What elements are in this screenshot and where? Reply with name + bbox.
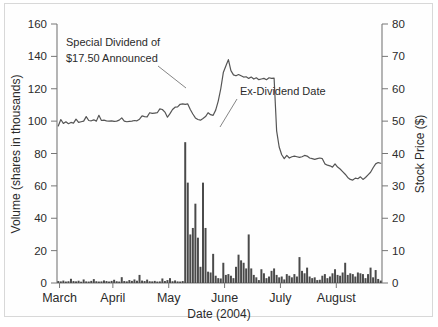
volume-bar [133, 279, 135, 283]
volume-bar [205, 228, 207, 283]
volume-bar [212, 254, 214, 283]
right-axis-ticks [382, 24, 388, 283]
volume-bar [161, 278, 163, 283]
volume-bar [375, 270, 377, 283]
volume-bar [286, 274, 288, 283]
volume-bar [220, 278, 222, 283]
volume-bar [332, 273, 334, 283]
volume-bar [88, 282, 90, 283]
volume-bar [250, 268, 252, 283]
x-axis-month-label: August [317, 291, 356, 305]
volume-bar [329, 277, 331, 283]
volume-bar [357, 272, 359, 283]
left-tick-label: 160 [28, 18, 47, 30]
volume-bar [144, 281, 146, 283]
volume-bar [238, 255, 240, 283]
volume-bar [349, 273, 351, 283]
volume-bar [339, 276, 341, 283]
left-tick-label: 20 [34, 245, 47, 257]
left-tick-label: 120 [28, 83, 47, 95]
left-axis-ticks [51, 24, 57, 283]
volume-bar [184, 142, 186, 283]
volume-bar [118, 282, 120, 283]
volume-bar [126, 281, 128, 283]
x-axis-month-label: July [269, 291, 292, 305]
volume-bar [352, 274, 354, 283]
volume-bar [197, 238, 199, 283]
volume-bar [192, 228, 194, 283]
volume-bar [319, 280, 321, 283]
volume-bar [207, 272, 209, 283]
volume-bar [131, 281, 133, 283]
volume-bar [365, 278, 367, 283]
annotation-special-dividend: Special Dividend of $17.50 Announced [66, 36, 186, 88]
volume-bar [326, 278, 328, 283]
volume-bar [141, 281, 143, 283]
volume-bar [276, 275, 278, 283]
left-axis-title: Volume (shares in thousands) [9, 75, 23, 234]
volume-bar [314, 277, 316, 283]
volume-bar [136, 281, 138, 283]
volume-bar [121, 277, 123, 283]
volume-bar [291, 277, 293, 283]
volume-bar [309, 277, 311, 283]
volume-bar [156, 282, 158, 283]
volume-bar [337, 275, 339, 283]
volume-bar [311, 278, 313, 283]
volume-bar [306, 268, 308, 283]
volume-bar [301, 271, 303, 283]
volume-bar [354, 277, 356, 283]
left-tick-label: 80 [34, 148, 47, 160]
dual-axis-volume-price-chart: 020406080100120140160 Volume (shares in … [0, 0, 438, 327]
volume-bar [78, 281, 80, 283]
volume-bar [172, 281, 174, 283]
x-axis-title: Date (2004) [187, 307, 250, 321]
volume-bar [174, 280, 176, 283]
volume-bar [98, 282, 100, 283]
annotation-ex-dividend-leader-line [220, 99, 237, 127]
stock-price-line [58, 60, 380, 180]
left-tick-label: 140 [28, 50, 47, 62]
volume-bar [113, 280, 115, 283]
right-tick-label: 40 [392, 148, 405, 160]
volume-bar [304, 273, 306, 283]
volume-bar [258, 280, 260, 283]
volume-bar [255, 277, 257, 283]
volume-bar [103, 280, 105, 283]
volume-bar [210, 272, 212, 283]
volume-bar [288, 276, 290, 283]
volume-bar [139, 275, 141, 283]
volume-bar [177, 281, 179, 283]
volume-bar [334, 269, 336, 283]
right-tick-label: 10 [392, 245, 405, 257]
volume-bar [100, 281, 102, 283]
volume-bar [199, 267, 201, 283]
right-tick-label: 0 [392, 277, 398, 289]
x-axis-month-label: April [100, 291, 125, 305]
right-tick-label: 70 [392, 50, 405, 62]
volume-bar [67, 281, 69, 283]
volume-bar [344, 263, 346, 283]
volume-bar [73, 281, 75, 283]
annotation-ex-dividend-label: Ex-Dividend Date [240, 85, 326, 97]
volume-bar [243, 263, 245, 283]
volume-bar [263, 273, 265, 283]
volume-bar [60, 281, 62, 283]
volume-bar [362, 274, 364, 283]
volume-bar [281, 277, 283, 283]
volume-bar [159, 281, 161, 283]
left-tick-label: 60 [34, 180, 47, 192]
volume-bars [57, 142, 381, 283]
volume-bar [347, 275, 349, 283]
volume-bar [65, 282, 67, 283]
volume-bar [179, 282, 181, 283]
volume-bar [151, 281, 153, 283]
x-axis-ticks [60, 283, 337, 288]
right-tick-label: 50 [392, 115, 405, 127]
volume-bar [217, 278, 219, 283]
volume-bar [370, 268, 372, 283]
right-tick-label: 80 [392, 18, 405, 30]
volume-bar [232, 278, 234, 283]
volume-bar [93, 279, 95, 283]
left-axis: 020406080100120140160 Volume (shares in … [9, 18, 57, 289]
